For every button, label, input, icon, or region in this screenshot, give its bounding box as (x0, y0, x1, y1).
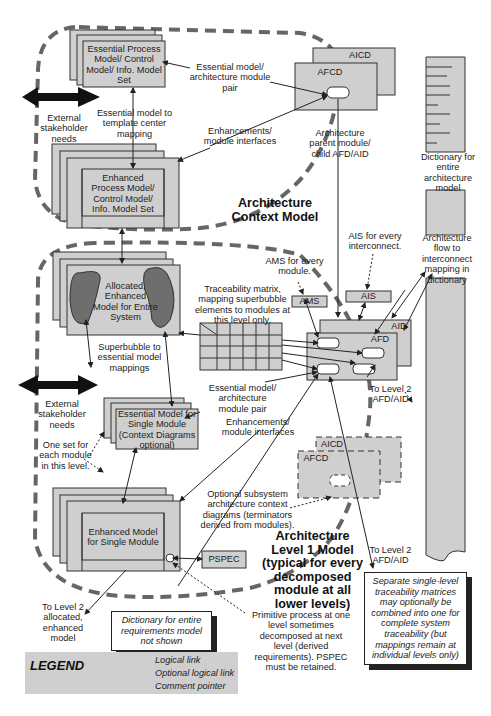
essential-model-set-label: Essential Process Model/ Control Model/ … (83, 44, 165, 86)
legend-comment-pointer: Comment pointer (155, 681, 225, 691)
stakeholder-label-top: External stakeholder needs (38, 113, 90, 144)
dictionary-entire-label: Dictionary for entire architecture model (418, 152, 478, 194)
note-separate-matrices: Separate single-level traceability matri… (364, 572, 467, 665)
label-template-mapping: Essential model to template center mappi… (92, 108, 177, 139)
label-enhancements-top: Enhancements/ module interfaces (200, 126, 280, 147)
stakeholder-arrow-bottom (18, 375, 98, 395)
primitive-process-label: Primitive process at one level sometimes… (246, 610, 356, 672)
afcd-label: AFCD (310, 67, 350, 77)
stakeholder-label-bottom: External stakeholder needs (36, 399, 88, 430)
stakeholder-arrow-top (22, 87, 100, 107)
essential-single-label: Essential Model for Single Module (Conte… (116, 409, 198, 451)
one-set-label: One set for each module in this level. (38, 440, 93, 471)
to-level2-afd-label-2: To Level 2 AFD/AID (363, 545, 418, 566)
pspec-label: PSPEC (202, 554, 246, 564)
dictionary-flow-label: Architecture flow to interconnect mappin… (416, 233, 478, 285)
label-architecture-parent: Architecture parent module/ child AFD/AI… (305, 128, 375, 159)
enhanced-single-label: Enhanced Model for Single Module (82, 527, 164, 548)
level1-model-title: Architecture Level 1 Model (typical for … (255, 530, 370, 612)
legend-logical-link: Logical link (155, 655, 200, 665)
diagram-canvas: Essential Process Model/ Control Model/ … (0, 0, 491, 716)
ams-note: AMS for every module. (262, 256, 327, 277)
label-essential-pair-top: Essential model/ architecture module pai… (185, 62, 275, 93)
ais-label: AIS (346, 291, 391, 301)
label-enhancements-mid: Enhancements/ module interfaces (218, 417, 298, 438)
to-level2-allocated-label: To Level 2 allocated, enhanced model (38, 602, 88, 644)
legend-optional-logical-link: Optional logical link (155, 668, 234, 678)
context-model-title: Architecture Context Model (225, 197, 325, 224)
aicd-label: AICD (340, 50, 380, 60)
to-level2-afd-label: To Level 2 AFD/AID (363, 384, 418, 405)
optional-subsystem-label: Optional subsystem architecture context … (200, 489, 295, 531)
legend-title: LEGEND (30, 658, 84, 673)
traceability-matrix (200, 323, 282, 370)
label-essential-pair-mid: Essential model/ architecture module pai… (205, 383, 280, 414)
ais-note: AIS for every interconnect. (345, 231, 405, 252)
enhanced-model-set-label: Enhanced Process Model/ Control Model/ I… (82, 173, 164, 215)
traceability-label: Traceability matrix, mapping superbubble… (190, 284, 295, 326)
note-dictionary-requirements: Dictionary for entire requirements model… (111, 611, 212, 651)
aid-label: AID (387, 321, 411, 331)
ams-label: AMS (292, 296, 327, 306)
allocated-model-label: Allocated, Enhanced Model for Entire Sys… (88, 281, 163, 323)
superbubble-label: Superbubble to essential model mappings (92, 342, 167, 373)
afcd-optional-label: AFCD (296, 453, 336, 463)
afd-label: AFD (366, 334, 394, 344)
aicd-optional-label: AICD (312, 439, 352, 449)
